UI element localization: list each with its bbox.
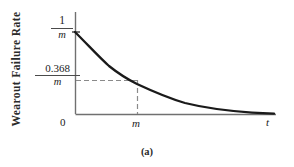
fraction-denominator: m: [51, 29, 73, 41]
y-tick-label-decay-over-m: 0.368 m: [35, 63, 80, 88]
failure-rate-curve: [75, 32, 274, 114]
x-tick-label-origin: 0: [60, 117, 66, 128]
fraction-denominator: m: [35, 76, 80, 88]
figure-caption: (a): [0, 146, 294, 157]
y-tick-label-one-over-m: 1 m: [51, 15, 73, 40]
fraction-numerator: 0.368: [35, 63, 80, 75]
x-tick-label-m: m: [132, 118, 140, 129]
x-axis-variable-label: t: [266, 117, 269, 128]
failure-rate-figure: Wearout Failure Rate 1 m 0.368 m 0 m t (…: [0, 0, 294, 167]
fraction-numerator: 1: [51, 15, 73, 28]
